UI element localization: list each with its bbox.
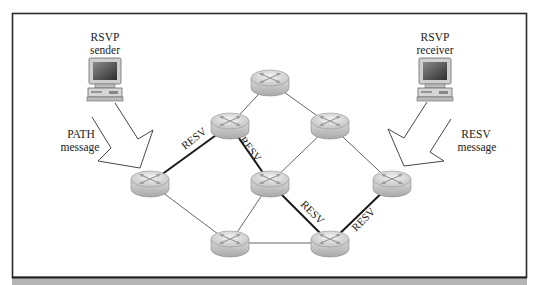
router-icon-r2 (211, 113, 249, 139)
receiver-label-line1: RSVP (421, 31, 450, 43)
router-icon-r6 (373, 171, 411, 197)
resv-arrow-label-line2: message (458, 141, 497, 154)
sender-label-line1: RSVP (91, 31, 120, 43)
resv-arrow-label-line1: RESV (461, 128, 491, 140)
path-arrow-label-line2: message (61, 141, 100, 154)
router-icon-r7 (211, 231, 249, 257)
computer-icon-sender (87, 58, 123, 101)
router-icon-r3 (311, 113, 349, 139)
router-icon-r1 (251, 70, 289, 96)
path-arrow-label-line1: PATH (67, 128, 95, 140)
rsvp-diagram: RESV RESV RESV RESV RSVP sender RSVP rec… (0, 0, 537, 285)
router-icon-r5 (251, 171, 289, 197)
sender-label-line2: sender (90, 44, 120, 56)
router-icon-r4 (131, 171, 169, 197)
computer-icon-receiver (417, 58, 453, 101)
receiver-label-line2: receiver (416, 44, 453, 56)
router-icon-r8 (311, 231, 349, 257)
